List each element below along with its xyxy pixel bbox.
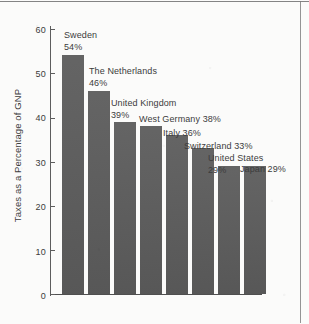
y-axis-title: Taxes as a Percentage of GNP [12, 71, 23, 241]
bar-sweden [62, 55, 84, 294]
y-tick-10 [50, 250, 55, 251]
annotation-italy: Italy 36% [163, 128, 201, 140]
y-tick-label-30: 30 [24, 158, 46, 168]
annotation-west-germany: West Germany 38% [139, 114, 221, 126]
y-tick-20 [50, 206, 55, 207]
annotation-united-states-name: United States [208, 153, 263, 165]
annotation-the-netherlands-value: 46% [89, 78, 157, 90]
bar-japan [244, 166, 266, 294]
y-tick-0 [50, 294, 55, 295]
annotation-switzerland: Switzerland 33% [184, 141, 253, 153]
annotation-the-netherlands: The Netherlands 46% [89, 66, 157, 89]
scanned-page: Taxes as a Percentage of GNP 60 50 40 30… [0, 0, 309, 324]
annotation-sweden-value: 54% [64, 42, 97, 54]
bar-united-states [218, 166, 240, 294]
x-axis-line [50, 294, 262, 295]
annotation-japan: Japan 29% [240, 164, 286, 176]
y-tick-label-10: 10 [24, 247, 46, 257]
y-tick-label-0: 0 [24, 291, 46, 301]
annotation-the-netherlands-name: The Netherlands [89, 66, 157, 78]
y-tick-label-60: 60 [24, 25, 46, 35]
y-tick-label-20: 20 [24, 202, 46, 212]
y-axis-line [50, 26, 51, 296]
y-tick-40 [50, 118, 55, 119]
y-tick-50 [50, 73, 55, 74]
annotation-sweden: Sweden 54% [64, 30, 97, 53]
y-tick-30 [50, 162, 55, 163]
annotation-sweden-name: Sweden [64, 30, 97, 42]
y-tick-label-50: 50 [24, 69, 46, 79]
y-tick-label-40: 40 [24, 113, 46, 123]
bar-chart: Taxes as a Percentage of GNP 60 50 40 30… [0, 0, 309, 324]
bar-united-kingdom [114, 122, 136, 294]
bar-italy [166, 135, 188, 294]
bar-west-germany [140, 126, 162, 294]
bar-the-netherlands [88, 91, 110, 294]
annotation-united-kingdom-name: United Kingdom [111, 98, 176, 110]
y-tick-60 [50, 29, 55, 30]
